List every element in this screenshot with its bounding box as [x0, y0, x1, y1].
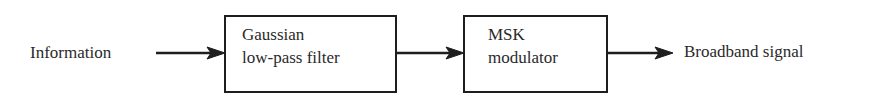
block-label-line2: low-pass filter [242, 46, 340, 69]
output-label: Broadband signal [684, 42, 803, 62]
block-label-line1: Gaussian [242, 23, 340, 46]
gaussian-lowpass-filter-block: Gaussian low-pass filter [224, 15, 397, 93]
msk-modulator-block: MSK modulator [463, 15, 608, 93]
arrow-modulator-to-output [607, 47, 673, 59]
block-label-line2: modulator [488, 46, 558, 69]
block-label-line1: MSK [488, 23, 558, 46]
arrow-filter-to-modulator [396, 47, 464, 59]
arrow-input-to-filter [156, 47, 225, 59]
